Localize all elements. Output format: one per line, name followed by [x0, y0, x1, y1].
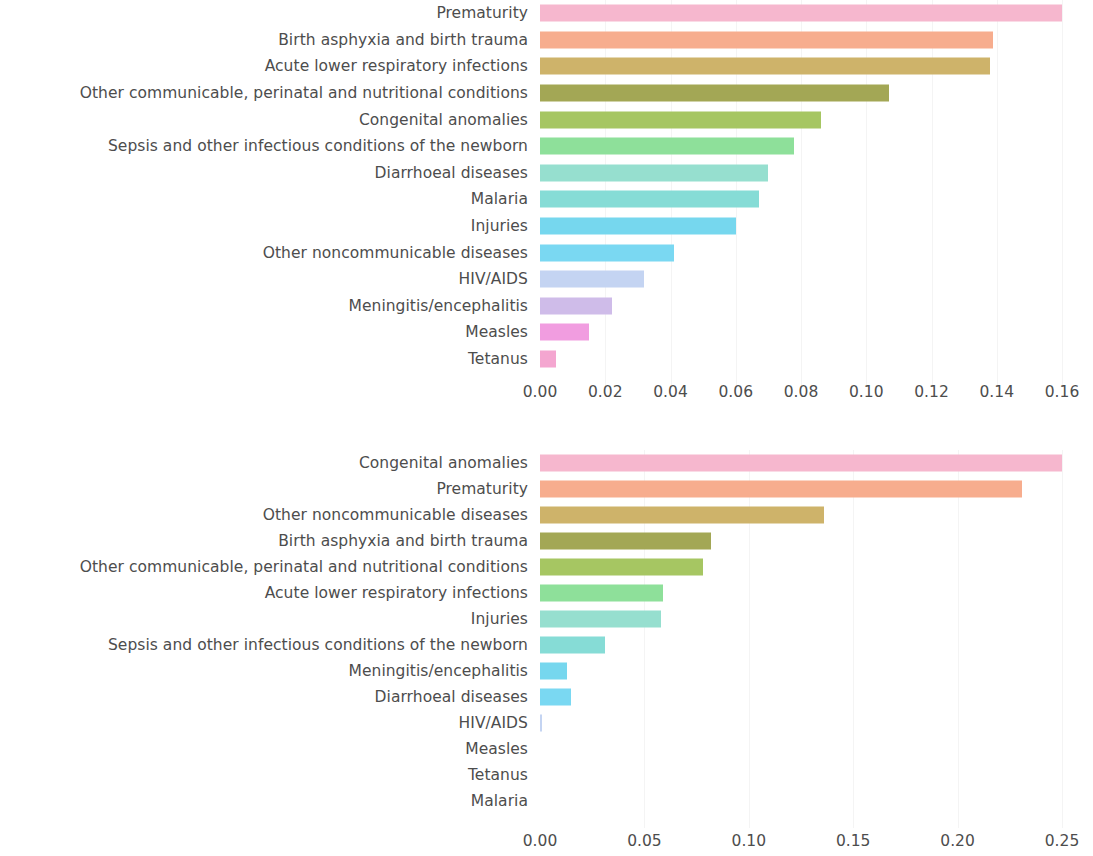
bar-track — [534, 710, 1093, 736]
bar — [540, 533, 711, 550]
x-axis-tick-label: 0.04 — [653, 383, 688, 401]
category-label: Tetanus — [0, 767, 534, 783]
bar-track — [534, 80, 1093, 107]
category-label: Sepsis and other infectious conditions o… — [0, 637, 534, 653]
x-axis-tick-label: 0.14 — [979, 383, 1014, 401]
bar-row: Injuries — [0, 606, 1093, 632]
category-label: Prematurity — [0, 481, 534, 497]
bar-track — [534, 502, 1093, 528]
bar-row: HIV/AIDS — [0, 266, 1093, 293]
category-label: Acute lower respiratory infections — [0, 58, 534, 74]
bar — [540, 663, 567, 680]
bar — [540, 58, 990, 75]
bar-track — [534, 106, 1093, 133]
category-label: Other communicable, perinatal and nutrit… — [0, 85, 534, 101]
bar-row: Measles — [0, 736, 1093, 762]
x-axis-tick-label: 0.12 — [914, 383, 949, 401]
bar-track — [534, 266, 1093, 293]
bar-row: HIV/AIDS — [0, 710, 1093, 736]
bar — [540, 715, 542, 732]
x-axis: 0.000.020.040.060.080.100.120.140.16 — [0, 379, 1093, 409]
bar-row: Acute lower respiratory infections — [0, 53, 1093, 80]
bar-track — [534, 450, 1093, 476]
category-label: Injuries — [0, 611, 534, 627]
bar-track — [534, 0, 1093, 27]
bar — [540, 271, 644, 288]
bar — [540, 611, 661, 628]
category-label: Other noncommunicable diseases — [0, 245, 534, 261]
bar-row: Other communicable, perinatal and nutrit… — [0, 80, 1093, 107]
bar — [540, 164, 768, 181]
x-axis: 0.000.050.100.150.200.25 — [0, 828, 1093, 856]
bar-row: Birth asphyxia and birth trauma — [0, 27, 1093, 54]
category-label: Diarrhoeal diseases — [0, 689, 534, 705]
x-axis-tick-label: 0.20 — [940, 832, 975, 850]
category-label: Other communicable, perinatal and nutrit… — [0, 559, 534, 575]
bar-row: Birth asphyxia and birth trauma — [0, 528, 1093, 554]
bar — [540, 31, 993, 48]
category-label: HIV/AIDS — [0, 715, 534, 731]
bar-track — [534, 346, 1093, 373]
bar — [540, 5, 1062, 22]
bar-row: Tetanus — [0, 346, 1093, 373]
bar-rows: Congenital anomaliesPrematurityOther non… — [0, 450, 1093, 814]
bar-row: Other noncommunicable diseases — [0, 239, 1093, 266]
x-axis-tick-label: 0.05 — [627, 832, 662, 850]
bar-row: Prematurity — [0, 476, 1093, 502]
category-label: Measles — [0, 324, 534, 340]
bar-track — [534, 476, 1093, 502]
bar-track — [534, 606, 1093, 632]
bar-chart-panel-top: PrematurityBirth asphyxia and birth trau… — [0, 0, 1093, 372]
bar-track — [534, 684, 1093, 710]
bar-row: Sepsis and other infectious conditions o… — [0, 632, 1093, 658]
category-label: Tetanus — [0, 351, 534, 367]
bar — [540, 507, 824, 524]
category-label: Meningitis/encephalitis — [0, 663, 534, 679]
x-axis-tick-label: 0.08 — [784, 383, 819, 401]
category-label: Birth asphyxia and birth trauma — [0, 32, 534, 48]
bar — [540, 191, 759, 208]
x-axis-tick-label: 0.25 — [1045, 832, 1080, 850]
bar-track — [534, 239, 1093, 266]
bar-row: Malaria — [0, 186, 1093, 213]
category-label: Sepsis and other infectious conditions o… — [0, 138, 534, 154]
bar-row: Congenital anomalies — [0, 106, 1093, 133]
bar-track — [534, 788, 1093, 814]
category-label: Diarrhoeal diseases — [0, 165, 534, 181]
category-label: Meningitis/encephalitis — [0, 298, 534, 314]
category-label: Prematurity — [0, 5, 534, 21]
category-label: Malaria — [0, 793, 534, 809]
bar-row: Prematurity — [0, 0, 1093, 27]
bar-row: Meningitis/encephalitis — [0, 658, 1093, 684]
bar-track — [534, 319, 1093, 346]
bar-track — [534, 53, 1093, 80]
bar-track — [534, 762, 1093, 788]
x-axis-tick-label: 0.10 — [849, 383, 884, 401]
bar-track — [534, 213, 1093, 240]
bar-track — [534, 160, 1093, 187]
bar-track — [534, 580, 1093, 606]
bar — [540, 218, 736, 235]
bar-track — [534, 133, 1093, 160]
bar — [540, 351, 556, 368]
category-label: Birth asphyxia and birth trauma — [0, 533, 534, 549]
bar-row: Sepsis and other infectious conditions o… — [0, 133, 1093, 160]
x-axis-tick-label: 0.15 — [836, 832, 871, 850]
bar-row: Malaria — [0, 788, 1093, 814]
bar — [540, 324, 589, 341]
category-label: Malaria — [0, 191, 534, 207]
bar-track — [534, 736, 1093, 762]
bar — [540, 585, 663, 602]
bar-track — [534, 27, 1093, 54]
bar-track — [534, 186, 1093, 213]
bar-row: Congenital anomalies — [0, 450, 1093, 476]
category-label: Congenital anomalies — [0, 455, 534, 471]
bar — [540, 481, 1022, 498]
bar — [540, 297, 612, 314]
bar-track — [534, 554, 1093, 580]
bar-track — [534, 293, 1093, 320]
bar-row: Other communicable, perinatal and nutrit… — [0, 554, 1093, 580]
bar-chart-panel-bottom: Congenital anomaliesPrematurityOther non… — [0, 450, 1093, 814]
bar — [540, 85, 889, 102]
bar-row: Meningitis/encephalitis — [0, 293, 1093, 320]
